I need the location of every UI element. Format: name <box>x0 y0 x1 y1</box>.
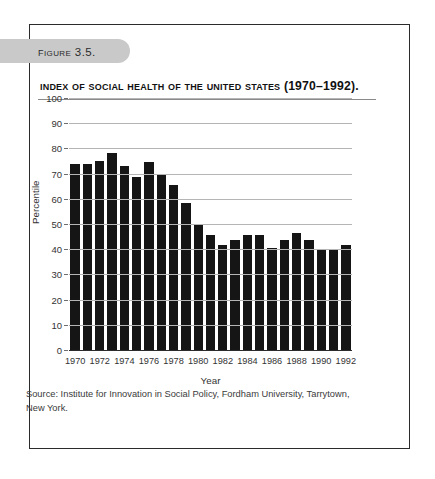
gridline <box>69 300 352 301</box>
x-axis-tick-label: 1976 <box>139 356 159 366</box>
x-axis-tick-label: 1992 <box>336 356 356 366</box>
y-axis-title: Percentile <box>30 180 41 224</box>
source-note: Source: Institute for Innovation in Soci… <box>26 387 354 415</box>
bar <box>95 161 104 350</box>
y-axis-tick-mark <box>64 224 68 225</box>
bar <box>243 235 252 350</box>
y-axis-tick-mark <box>64 123 68 124</box>
y-axis-tick-label: 80 <box>51 143 62 154</box>
bar <box>157 175 166 350</box>
y-axis-tick-label: 30 <box>51 269 62 280</box>
bar <box>230 240 239 350</box>
x-axis-tick-label: 1982 <box>213 356 233 366</box>
figure-number-badge: Figure 3.5. <box>0 39 130 63</box>
gridline <box>69 174 352 175</box>
y-axis-tick-mark <box>64 300 68 301</box>
y-axis-tick-mark <box>64 174 68 175</box>
chart-canvas: Percentile 01020304050607080901001970197… <box>0 0 381 425</box>
gridline <box>69 325 352 326</box>
y-axis-tick-label: 100 <box>46 93 62 104</box>
y-axis-tick-mark <box>64 325 68 326</box>
y-axis-tick-mark <box>64 98 68 99</box>
x-axis-tick-label: 1970 <box>65 356 85 366</box>
bar <box>218 245 227 350</box>
gridline <box>69 249 352 250</box>
bar <box>304 240 313 350</box>
y-axis-tick-label: 60 <box>51 193 62 204</box>
gridline <box>69 123 352 124</box>
x-axis-tick-label: 1978 <box>163 356 183 366</box>
bar <box>144 162 153 350</box>
plot-area: 0102030405060708090100197019721974197619… <box>69 98 352 350</box>
y-axis-tick-label: 70 <box>51 168 62 179</box>
gridline <box>69 199 352 200</box>
bar <box>280 240 289 350</box>
bar <box>107 153 116 350</box>
bar <box>83 164 92 350</box>
bar <box>120 166 129 350</box>
bar <box>70 164 79 350</box>
bar <box>255 235 264 350</box>
y-axis-tick-label: 10 <box>51 319 62 330</box>
gridline <box>69 274 352 275</box>
figure-number-label: Figure 3.5. <box>38 44 96 59</box>
y-axis-tick-label: 90 <box>51 118 62 129</box>
x-axis-tick-label: 1990 <box>311 356 331 366</box>
y-axis-tick-mark <box>64 274 68 275</box>
y-axis-tick-mark <box>64 249 68 250</box>
x-axis-tick-label: 1984 <box>237 356 257 366</box>
x-axis-tick-label: 1972 <box>90 356 110 366</box>
y-axis-tick-label: 50 <box>51 219 62 230</box>
y-axis-tick-label: 0 <box>57 345 62 356</box>
bar <box>292 233 301 350</box>
x-axis-tick-label: 1980 <box>188 356 208 366</box>
y-axis-tick-mark <box>64 199 68 200</box>
gridline <box>69 224 352 225</box>
x-axis-tick-label: 1986 <box>262 356 282 366</box>
gridline <box>69 98 352 99</box>
y-axis-tick-mark <box>64 350 68 351</box>
x-axis-title: Year <box>69 375 352 386</box>
y-axis-tick-mark <box>64 148 68 149</box>
x-axis-line <box>69 350 352 351</box>
gridline <box>69 148 352 149</box>
x-axis-tick-label: 1974 <box>114 356 134 366</box>
bar <box>341 245 350 350</box>
y-axis-tick-label: 40 <box>51 244 62 255</box>
x-axis-tick-label: 1988 <box>286 356 306 366</box>
bar <box>206 235 215 350</box>
bar <box>194 224 203 350</box>
y-axis-tick-label: 20 <box>51 294 62 305</box>
